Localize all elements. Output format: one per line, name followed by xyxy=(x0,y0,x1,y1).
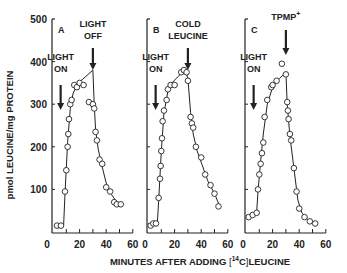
annotation-label: LEUCINE xyxy=(168,31,208,41)
data-point xyxy=(259,150,265,156)
arrow-head-icon xyxy=(57,103,64,110)
data-point xyxy=(58,223,64,229)
data-point xyxy=(118,202,124,208)
data-point xyxy=(307,219,313,225)
x-tick-label: 60 xyxy=(127,239,139,250)
x-tick-label: 0 xyxy=(142,239,148,250)
data-point xyxy=(159,135,165,141)
data-point xyxy=(302,214,308,220)
data-point xyxy=(161,108,167,114)
x-tick-label: 0 xyxy=(44,239,50,250)
data-point xyxy=(283,72,289,78)
data-point xyxy=(254,210,260,216)
data-point xyxy=(159,148,165,154)
data-point xyxy=(157,176,163,182)
arrow-head-icon xyxy=(282,48,289,55)
data-point xyxy=(158,163,164,169)
data-point xyxy=(288,138,294,144)
y-tick-label: 100 xyxy=(30,184,47,195)
annotation-label: TPMP+ xyxy=(271,10,300,22)
data-point xyxy=(156,195,162,201)
data-point xyxy=(260,140,266,146)
data-point xyxy=(264,97,270,103)
panel-letter: B xyxy=(153,25,160,35)
data-point xyxy=(255,187,261,193)
data-point xyxy=(202,172,208,178)
fitted-curve xyxy=(246,72,315,223)
data-point xyxy=(258,161,264,167)
data-point xyxy=(286,116,292,122)
data-point xyxy=(294,189,300,195)
data-point xyxy=(94,138,100,144)
data-point xyxy=(81,82,87,88)
data-point xyxy=(69,97,75,103)
annotation-label: COLD xyxy=(175,19,201,29)
annotation-label: ON xyxy=(149,64,163,74)
x-tick-label: 20 xyxy=(267,239,279,250)
annotation-label: LIGHT xyxy=(142,52,169,62)
data-point xyxy=(208,182,214,188)
y-tick-label: 200 xyxy=(30,142,47,153)
data-point xyxy=(287,131,293,137)
data-point xyxy=(65,144,71,150)
data-point xyxy=(285,108,291,114)
data-point xyxy=(62,189,68,195)
y-tick-label: 400 xyxy=(30,57,47,68)
data-point xyxy=(160,118,166,124)
data-point xyxy=(284,99,290,105)
data-point xyxy=(188,114,194,120)
data-point xyxy=(312,221,318,227)
annotation-label: LIGHT xyxy=(47,52,74,62)
y-tick-label: 300 xyxy=(30,99,47,110)
data-point xyxy=(66,116,72,122)
x-tick-label: 40 xyxy=(196,239,208,250)
x-tick-label: 40 xyxy=(101,239,113,250)
panel-c: 0204060CLIGHTONTPMP+ xyxy=(240,10,332,250)
data-point xyxy=(172,82,178,88)
data-point xyxy=(274,78,280,84)
annotation-label: OFF xyxy=(84,31,102,41)
data-point xyxy=(262,114,268,120)
panel-letter: C xyxy=(251,25,258,35)
chart-figure: pmol LEUCINE/mg PROTEIN50040030020010002… xyxy=(0,0,347,273)
panel-a: 0204060ALIGHTONLIGHTOFF xyxy=(44,19,139,250)
data-point xyxy=(99,161,105,167)
data-point xyxy=(198,155,204,161)
annotation-label: LIGHT xyxy=(240,52,267,62)
data-point xyxy=(64,167,70,173)
data-point xyxy=(279,61,285,67)
x-tick-label: 60 xyxy=(222,239,234,250)
y-tick-label: 500 xyxy=(30,14,47,25)
data-point xyxy=(93,129,99,135)
data-point xyxy=(216,204,222,210)
data-point xyxy=(190,125,196,131)
data-point xyxy=(65,131,71,137)
annotation-label: ON xyxy=(54,64,68,74)
data-point xyxy=(164,97,170,103)
data-point xyxy=(193,144,199,150)
annotation-label: ON xyxy=(247,64,261,74)
data-point xyxy=(107,189,113,195)
x-tick-label: 20 xyxy=(169,239,181,250)
annotation-label: LIGHT xyxy=(79,19,106,29)
x-tick-label: 0 xyxy=(240,239,246,250)
panel-b: 0204060BLIGHTONCOLDLEUCINE xyxy=(142,19,234,250)
x-tick-label: 60 xyxy=(320,239,332,250)
data-point xyxy=(91,106,97,112)
data-point xyxy=(257,172,263,178)
data-point xyxy=(212,191,218,197)
arrow-head-icon xyxy=(152,103,159,110)
arrow-head-icon xyxy=(250,103,257,110)
data-point xyxy=(296,206,302,212)
panel-letter: A xyxy=(58,25,65,35)
x-axis-label: MINUTES AFTER ADDING [14C]LEUCINE xyxy=(110,255,290,267)
x-tick-label: 40 xyxy=(294,239,306,250)
data-point xyxy=(291,165,297,171)
x-tick-label: 20 xyxy=(74,239,86,250)
y-axis-label: pmol LEUCINE/mg PROTEIN xyxy=(4,70,15,199)
data-point xyxy=(185,78,191,84)
data-point xyxy=(184,69,190,75)
arrow-head-icon xyxy=(89,63,96,70)
data-point xyxy=(153,221,159,227)
